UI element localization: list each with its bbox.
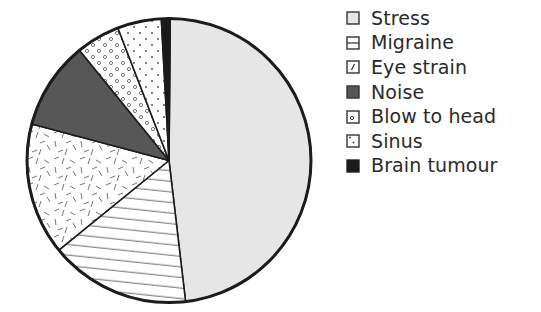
legend-label: Migraine: [371, 33, 454, 52]
legend-item-sinus: Sinus: [346, 129, 498, 154]
brain-tumour-swatch-icon: [346, 159, 360, 173]
eye-strain-swatch-icon: [346, 60, 360, 74]
pie-chart: [0, 0, 340, 312]
legend-label: Brain tumour: [371, 156, 498, 175]
legend-item-blow-to-head: Blow to head: [346, 104, 498, 129]
legend-item-eye-strain: Eye strain: [346, 55, 498, 80]
legend-item-noise: Noise: [346, 80, 498, 105]
legend-item-migraine: Migraine: [346, 31, 498, 56]
sinus-swatch-icon: [346, 134, 360, 148]
blow-to-head-swatch-icon: [346, 110, 360, 124]
legend-label: Eye strain: [371, 58, 467, 77]
noise-swatch-icon: [346, 85, 360, 99]
legend: Stress Migraine Eye strain Noise Blow to…: [346, 6, 498, 178]
legend-label: Stress: [371, 9, 430, 28]
legend-label: Blow to head: [371, 107, 496, 126]
stress-swatch-icon: [346, 11, 360, 25]
pie-slice-stress: [169, 19, 311, 302]
legend-label: Sinus: [371, 132, 423, 151]
legend-item-brain-tumour: Brain tumour: [346, 154, 498, 179]
legend-label: Noise: [371, 83, 424, 102]
legend-item-stress: Stress: [346, 6, 498, 31]
migraine-swatch-icon: [346, 36, 360, 50]
